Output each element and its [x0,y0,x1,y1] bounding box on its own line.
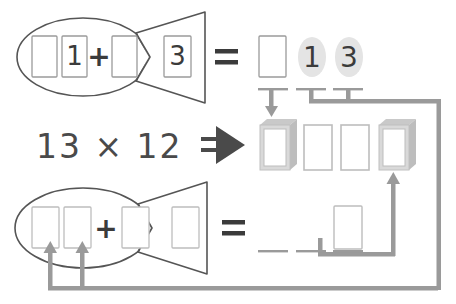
top-fish-box-4[interactable]: 3 [164,36,191,77]
top-fish-box-4-value: 3 [169,41,186,71]
top-plus-sign: + [87,40,110,73]
arrow-down-to-answer-box-1 [265,90,278,117]
top-result-digit-1: 1 [298,37,326,77]
bus-from-digits-to-right-edge [309,90,441,290]
answer-box-1[interactable] [260,119,297,170]
top-equals-sign [215,49,238,65]
bottom-blank-lines [258,250,363,252]
middle-problem-text: 13 × 12 [36,127,183,166]
bottom-plus-sign: + [94,212,117,245]
answer-box-3[interactable] [341,125,369,170]
bottom-equals-sign [222,220,245,236]
top-result-digit-3: 3 [335,37,363,77]
implies-arrow-icon [201,126,245,164]
top-fish-box-2[interactable]: 1 [62,36,87,77]
top-fish-box-3[interactable] [112,36,137,77]
top-result-digit-1-value: 1 [303,41,321,74]
bottom-fish-box-1[interactable] [32,207,59,248]
top-fish-box-1[interactable] [32,36,57,77]
bottom-fish-box-3[interactable] [122,207,149,248]
answer-box-2[interactable] [304,125,332,170]
diagram-canvas: 1 + 3 1 3 13 [0,0,456,304]
top-fish-box-2-value: 1 [66,41,83,71]
bottom-fish-box-2[interactable] [64,207,91,248]
answer-box-4[interactable] [379,119,416,170]
diagram-svg: 1 + 3 1 3 13 [0,0,456,304]
bottom-fish-box-4[interactable] [172,207,199,248]
bottom-result-box[interactable] [334,206,362,249]
top-result-digit-3-value: 3 [340,41,358,74]
top-result-box-1[interactable] [259,36,286,77]
